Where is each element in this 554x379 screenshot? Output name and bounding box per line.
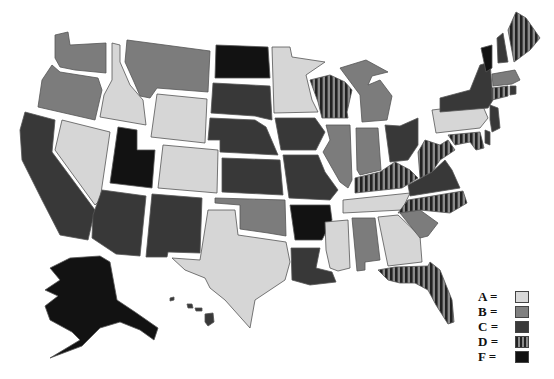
state-or [38,65,102,120]
legend-label: B = [478,304,515,320]
legend-row-f: F = [478,349,529,364]
legend-swatch-a [515,291,529,303]
state-hi3 [195,308,202,311]
state-nh [497,33,508,63]
state-fl [378,262,454,324]
legend-row-d: D = [478,334,529,349]
state-hi2 [187,304,193,308]
state-nj [490,105,500,132]
state-ma [492,70,520,86]
states-layer [20,12,540,358]
state-al [352,218,380,271]
state-co [158,145,218,193]
legend-swatch-b [515,306,529,318]
state-az [92,190,146,256]
legend-label: A = [478,289,515,305]
state-in [356,128,381,175]
state-de [485,130,490,145]
state-ut [110,127,155,188]
state-nd [215,45,270,78]
legend-label: C = [478,319,515,335]
state-ks [222,158,283,195]
state-sd [211,83,272,120]
state-wy [151,94,207,143]
state-ms [325,220,350,271]
state-hi4 [205,313,214,326]
legend-row-c: C = [478,319,529,334]
legend-swatch-c [515,321,529,333]
state-ri [510,86,516,95]
state-ct [492,86,508,100]
state-hi1 [170,297,174,301]
state-me [508,12,540,62]
state-ak [45,256,158,358]
state-mt [125,40,210,98]
legend-swatch-d [515,336,529,348]
legend-swatch-f [515,351,529,363]
state-ny [440,62,493,112]
state-oh [385,118,418,162]
legend-row-b: B = [478,304,529,319]
legend-label: F = [478,349,515,365]
legend-row-a: A = [478,289,529,304]
us-grade-map [0,0,554,379]
state-ia [275,118,325,150]
state-wa [55,32,106,73]
state-nm [146,194,202,257]
legend-label: D = [478,334,515,350]
state-ne [208,118,278,155]
grade-legend: A = B = C = D = F = [478,289,529,364]
